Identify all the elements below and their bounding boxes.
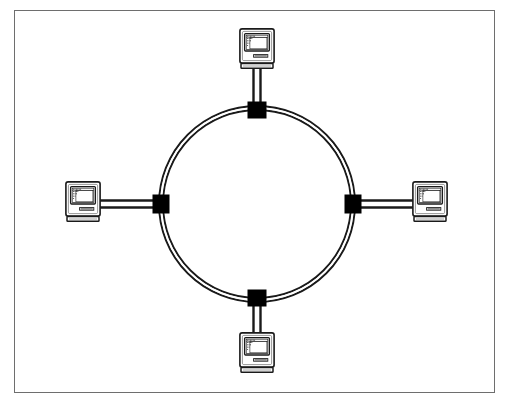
ring-topology-diagram: [0, 0, 510, 410]
computer-bottom[interactable]: [240, 333, 274, 372]
computer-left[interactable]: [66, 182, 100, 221]
node-left[interactable]: [153, 195, 169, 213]
node-bottom[interactable]: [248, 290, 266, 306]
ring-cable: [159, 106, 355, 302]
node-top[interactable]: [248, 102, 266, 118]
computer-top[interactable]: [240, 29, 274, 68]
node-right[interactable]: [345, 195, 361, 213]
figure-canvas: Ring network topology diagram: [0, 0, 510, 410]
computer-right[interactable]: [413, 182, 447, 221]
